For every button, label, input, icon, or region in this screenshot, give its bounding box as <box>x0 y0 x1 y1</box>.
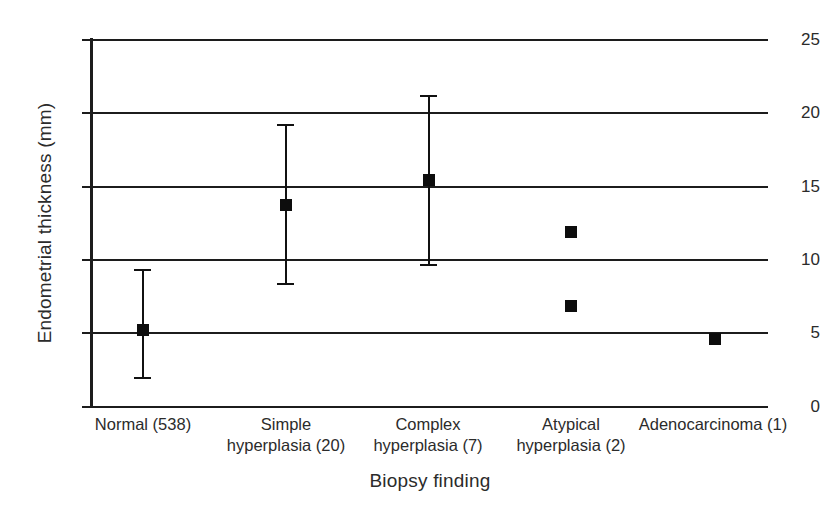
y-tick-label-20: 20 <box>780 103 820 123</box>
x-category-label-adenocarcinoma: Adenocarcinoma (1) <box>608 414 818 435</box>
errorbar-line-normal <box>142 269 144 377</box>
y-tick-label-10: 10 <box>780 250 820 270</box>
data-point-normal <box>137 324 149 336</box>
gridline-20 <box>92 112 768 114</box>
gridline-10 <box>92 259 768 261</box>
errorbar-cap-upper-simple-hyperplasia <box>277 124 294 126</box>
errorbar-cap-upper-complex-hyperplasia <box>420 95 437 97</box>
data-point-atypical-hyperplasia-2 <box>565 300 577 312</box>
data-point-simple-hyperplasia <box>280 199 292 211</box>
x-category-label-adenocarcinoma-line1: Adenocarcinoma (1) <box>608 414 818 435</box>
chart-figure: Endometrial thickness (mm) 25 20 15 10 5… <box>0 0 820 506</box>
x-axis-line <box>92 406 768 408</box>
y-tick-label-5: 5 <box>780 323 820 343</box>
y-tick-label-15: 15 <box>780 177 820 197</box>
errorbar-cap-upper-normal <box>134 269 151 271</box>
x-category-label-atypical-hyperplasia-line2: hyperplasia (2) <box>466 435 676 456</box>
data-point-atypical-hyperplasia-1 <box>565 226 577 238</box>
plot-area <box>92 39 768 406</box>
x-axis-title: Biopsy finding <box>92 470 768 492</box>
gridline-5 <box>92 332 768 334</box>
gridline-25 <box>92 39 768 41</box>
gridline-15 <box>92 186 768 188</box>
y-axis-title: Endometrial thickness (mm) <box>34 23 56 423</box>
errorbar-cap-lower-complex-hyperplasia <box>420 264 437 266</box>
data-point-complex-hyperplasia <box>423 174 435 186</box>
errorbar-cap-lower-normal <box>134 377 151 379</box>
data-point-adenocarcinoma <box>709 333 721 345</box>
y-tick-label-25: 25 <box>780 30 820 50</box>
errorbar-cap-lower-simple-hyperplasia <box>277 283 294 285</box>
